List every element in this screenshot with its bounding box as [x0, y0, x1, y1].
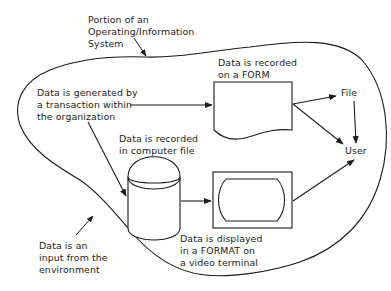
arrow-form-to-file: [293, 96, 336, 104]
transaction-label-line: Data is generated by: [37, 87, 138, 99]
arrow-environment-pointer: [76, 216, 93, 235]
transaction-label-line: the organization: [37, 111, 138, 123]
computer-file-label: Data is recorded in computer file: [119, 133, 198, 157]
display-label: Data is displayed in a FORMAT on a video…: [180, 233, 263, 270]
boundary-label-line: Portion of an: [88, 14, 194, 26]
boundary-label-line: System: [88, 38, 194, 50]
transaction-label: Data is generated by a transaction withi…: [37, 87, 138, 124]
video-terminal-shape: [213, 172, 292, 228]
arrow-terminal-to-user: [293, 160, 354, 201]
computer-file-label-line: Data is recorded: [119, 133, 198, 145]
form-label: Data is recorded on a FORM: [218, 57, 297, 81]
computer-file-label-line: in computer file: [119, 145, 198, 157]
display-label-line: in a FORMAT on: [180, 245, 263, 257]
form-label-line: on a FORM: [218, 69, 297, 81]
boundary-label-line: Operating/Information: [88, 26, 194, 38]
user-node: User: [345, 145, 367, 157]
transaction-label-line: a transaction within: [37, 99, 138, 111]
file-node: File: [341, 87, 357, 99]
environment-label: Data is an input from the environment: [39, 240, 108, 277]
arrow-form-to-user: [293, 104, 343, 144]
environment-label-line: input from the: [39, 252, 108, 264]
boundary-label: Portion of an Operating/Information Syst…: [88, 14, 194, 51]
form-label-line: Data is recorded: [218, 57, 297, 69]
display-label-line: Data is displayed: [180, 233, 263, 245]
form-shape: [214, 82, 292, 139]
arrow-file-to-user: [354, 101, 356, 143]
environment-label-line: Data is an: [39, 240, 108, 252]
environment-label-line: environment: [39, 264, 108, 276]
computer-file-cylinder: [128, 157, 180, 240]
display-label-line: a video terminal: [180, 257, 263, 269]
